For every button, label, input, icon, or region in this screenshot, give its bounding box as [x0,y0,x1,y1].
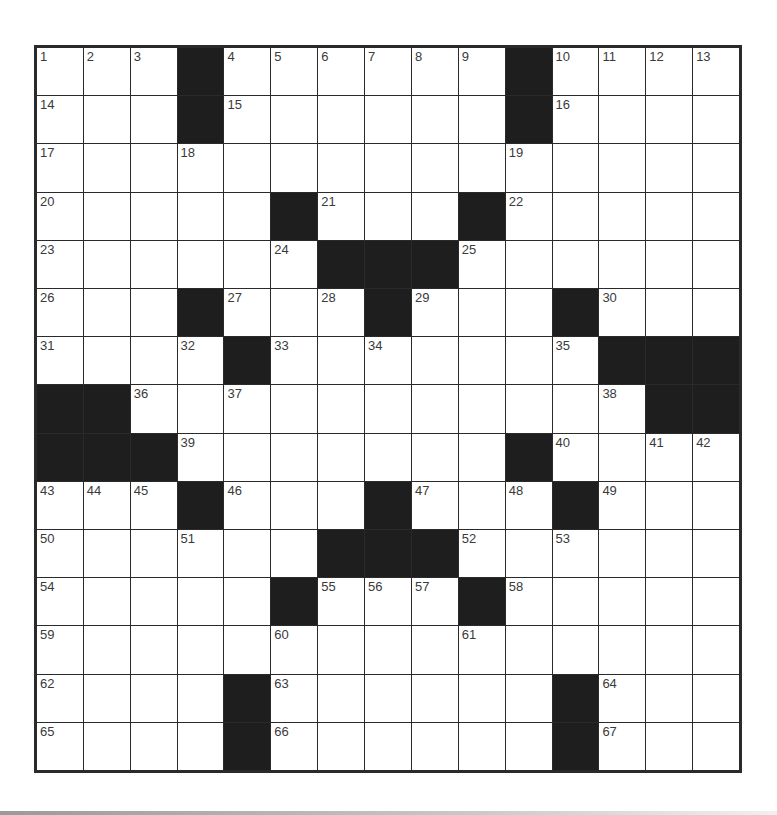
grid-cell[interactable]: 52 [459,530,505,577]
grid-cell[interactable] [459,675,505,722]
grid-cell[interactable] [318,337,364,384]
grid-cell[interactable]: 30 [599,289,645,336]
grid-cell[interactable] [506,675,552,722]
grid-cell[interactable]: 26 [37,289,83,336]
grid-cell[interactable] [318,385,364,432]
grid-cell[interactable] [318,482,364,529]
grid-cell[interactable]: 58 [506,578,552,625]
grid-cell[interactable]: 14 [37,96,83,143]
grid-cell[interactable] [318,144,364,191]
grid-cell[interactable] [365,675,411,722]
grid-cell[interactable] [131,241,177,288]
grid-cell[interactable]: 13 [693,48,739,95]
grid-cell[interactable] [506,289,552,336]
grid-cell[interactable]: 15 [224,96,270,143]
grid-cell[interactable] [646,482,692,529]
grid-cell[interactable]: 40 [553,434,599,481]
grid-cell[interactable] [693,144,739,191]
grid-cell[interactable] [693,241,739,288]
grid-cell[interactable] [646,144,692,191]
grid-cell[interactable]: 24 [271,241,317,288]
grid-cell[interactable] [412,144,458,191]
grid-cell[interactable]: 64 [599,675,645,722]
grid-cell[interactable]: 36 [131,385,177,432]
grid-cell[interactable] [599,434,645,481]
grid-cell[interactable]: 25 [459,241,505,288]
grid-cell[interactable] [365,626,411,673]
grid-cell[interactable]: 54 [37,578,83,625]
grid-cell[interactable] [84,337,130,384]
grid-cell[interactable]: 31 [37,337,83,384]
grid-cell[interactable] [224,530,270,577]
grid-cell[interactable]: 53 [553,530,599,577]
grid-cell[interactable]: 17 [37,144,83,191]
grid-cell[interactable] [553,241,599,288]
grid-cell[interactable]: 48 [506,482,552,529]
grid-cell[interactable]: 67 [599,723,645,770]
grid-cell[interactable] [178,241,224,288]
grid-cell[interactable] [271,144,317,191]
grid-cell[interactable]: 39 [178,434,224,481]
grid-cell[interactable] [693,96,739,143]
grid-cell[interactable] [646,723,692,770]
grid-cell[interactable]: 12 [646,48,692,95]
grid-cell[interactable] [506,337,552,384]
grid-cell[interactable] [693,675,739,722]
grid-cell[interactable] [459,723,505,770]
grid-cell[interactable] [646,626,692,673]
grid-cell[interactable] [646,241,692,288]
grid-cell[interactable]: 10 [553,48,599,95]
grid-cell[interactable] [224,241,270,288]
grid-cell[interactable] [365,96,411,143]
grid-cell[interactable]: 8 [412,48,458,95]
grid-cell[interactable] [84,530,130,577]
grid-cell[interactable]: 51 [178,530,224,577]
grid-cell[interactable]: 55 [318,578,364,625]
grid-cell[interactable] [693,193,739,240]
grid-cell[interactable] [84,144,130,191]
grid-cell[interactable] [131,723,177,770]
grid-cell[interactable] [271,434,317,481]
grid-cell[interactable] [365,434,411,481]
grid-cell[interactable] [412,96,458,143]
grid-cell[interactable]: 35 [553,337,599,384]
grid-cell[interactable]: 29 [412,289,458,336]
grid-cell[interactable] [693,482,739,529]
grid-cell[interactable] [178,578,224,625]
grid-cell[interactable]: 60 [271,626,317,673]
grid-cell[interactable] [412,626,458,673]
grid-cell[interactable] [224,144,270,191]
grid-cell[interactable] [646,96,692,143]
grid-cell[interactable]: 44 [84,482,130,529]
grid-cell[interactable] [131,144,177,191]
grid-cell[interactable] [599,193,645,240]
grid-cell[interactable]: 38 [599,385,645,432]
grid-cell[interactable]: 21 [318,193,364,240]
grid-cell[interactable] [553,578,599,625]
grid-cell[interactable] [318,96,364,143]
grid-cell[interactable] [459,434,505,481]
grid-cell[interactable]: 19 [506,144,552,191]
grid-cell[interactable]: 62 [37,675,83,722]
grid-cell[interactable] [459,337,505,384]
grid-cell[interactable] [599,96,645,143]
grid-cell[interactable] [506,241,552,288]
grid-cell[interactable] [224,578,270,625]
grid-cell[interactable] [459,144,505,191]
grid-cell[interactable] [271,96,317,143]
grid-cell[interactable] [553,626,599,673]
grid-cell[interactable] [646,193,692,240]
grid-cell[interactable]: 1 [37,48,83,95]
grid-cell[interactable] [178,675,224,722]
grid-cell[interactable] [506,385,552,432]
grid-cell[interactable] [84,193,130,240]
grid-cell[interactable] [599,578,645,625]
grid-cell[interactable] [84,675,130,722]
grid-cell[interactable]: 56 [365,578,411,625]
grid-cell[interactable] [553,193,599,240]
grid-cell[interactable]: 37 [224,385,270,432]
grid-cell[interactable] [131,289,177,336]
grid-cell[interactable]: 46 [224,482,270,529]
grid-cell[interactable] [131,337,177,384]
grid-cell[interactable]: 2 [84,48,130,95]
